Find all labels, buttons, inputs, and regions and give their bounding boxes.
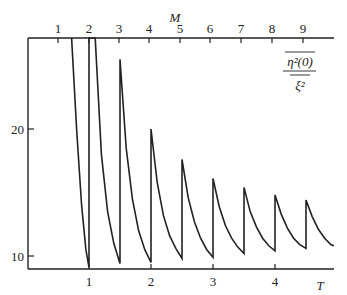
left-axis-ticks: 1020 <box>11 122 34 264</box>
bottom-axis-ticks: 1234 <box>86 264 279 289</box>
bottom-tick-label: 1 <box>86 274 93 289</box>
top-axis-title: M <box>169 10 182 25</box>
top-tick-label: 4 <box>146 21 153 36</box>
bottom-tick-label: 2 <box>148 274 155 289</box>
top-tick-label: 1 <box>55 21 62 36</box>
top-tick-label: 8 <box>269 21 276 36</box>
series-line <box>72 38 334 267</box>
data-series <box>72 38 334 267</box>
chart-figure: 123456789 1234 1020 M T η²(0) ξ² <box>0 0 347 295</box>
left-tick-label: 10 <box>11 249 24 264</box>
bottom-tick-label: 3 <box>210 274 217 289</box>
top-tick-label: 6 <box>207 21 214 36</box>
top-axis-ticks: 123456789 <box>55 21 307 43</box>
top-tick-label: 9 <box>300 21 307 36</box>
bottom-tick-label: 4 <box>272 274 279 289</box>
top-tick-label: 3 <box>116 21 123 36</box>
top-tick-label: 7 <box>238 21 245 36</box>
y-quantity-annotation: η²(0) ξ² <box>283 52 316 93</box>
top-tick-label: 2 <box>86 21 93 36</box>
annotation-denominator: ξ² <box>295 78 306 93</box>
annotation-numerator: η²(0) <box>287 54 313 69</box>
bottom-axis-title: T <box>316 278 324 293</box>
left-tick-label: 20 <box>11 122 24 137</box>
